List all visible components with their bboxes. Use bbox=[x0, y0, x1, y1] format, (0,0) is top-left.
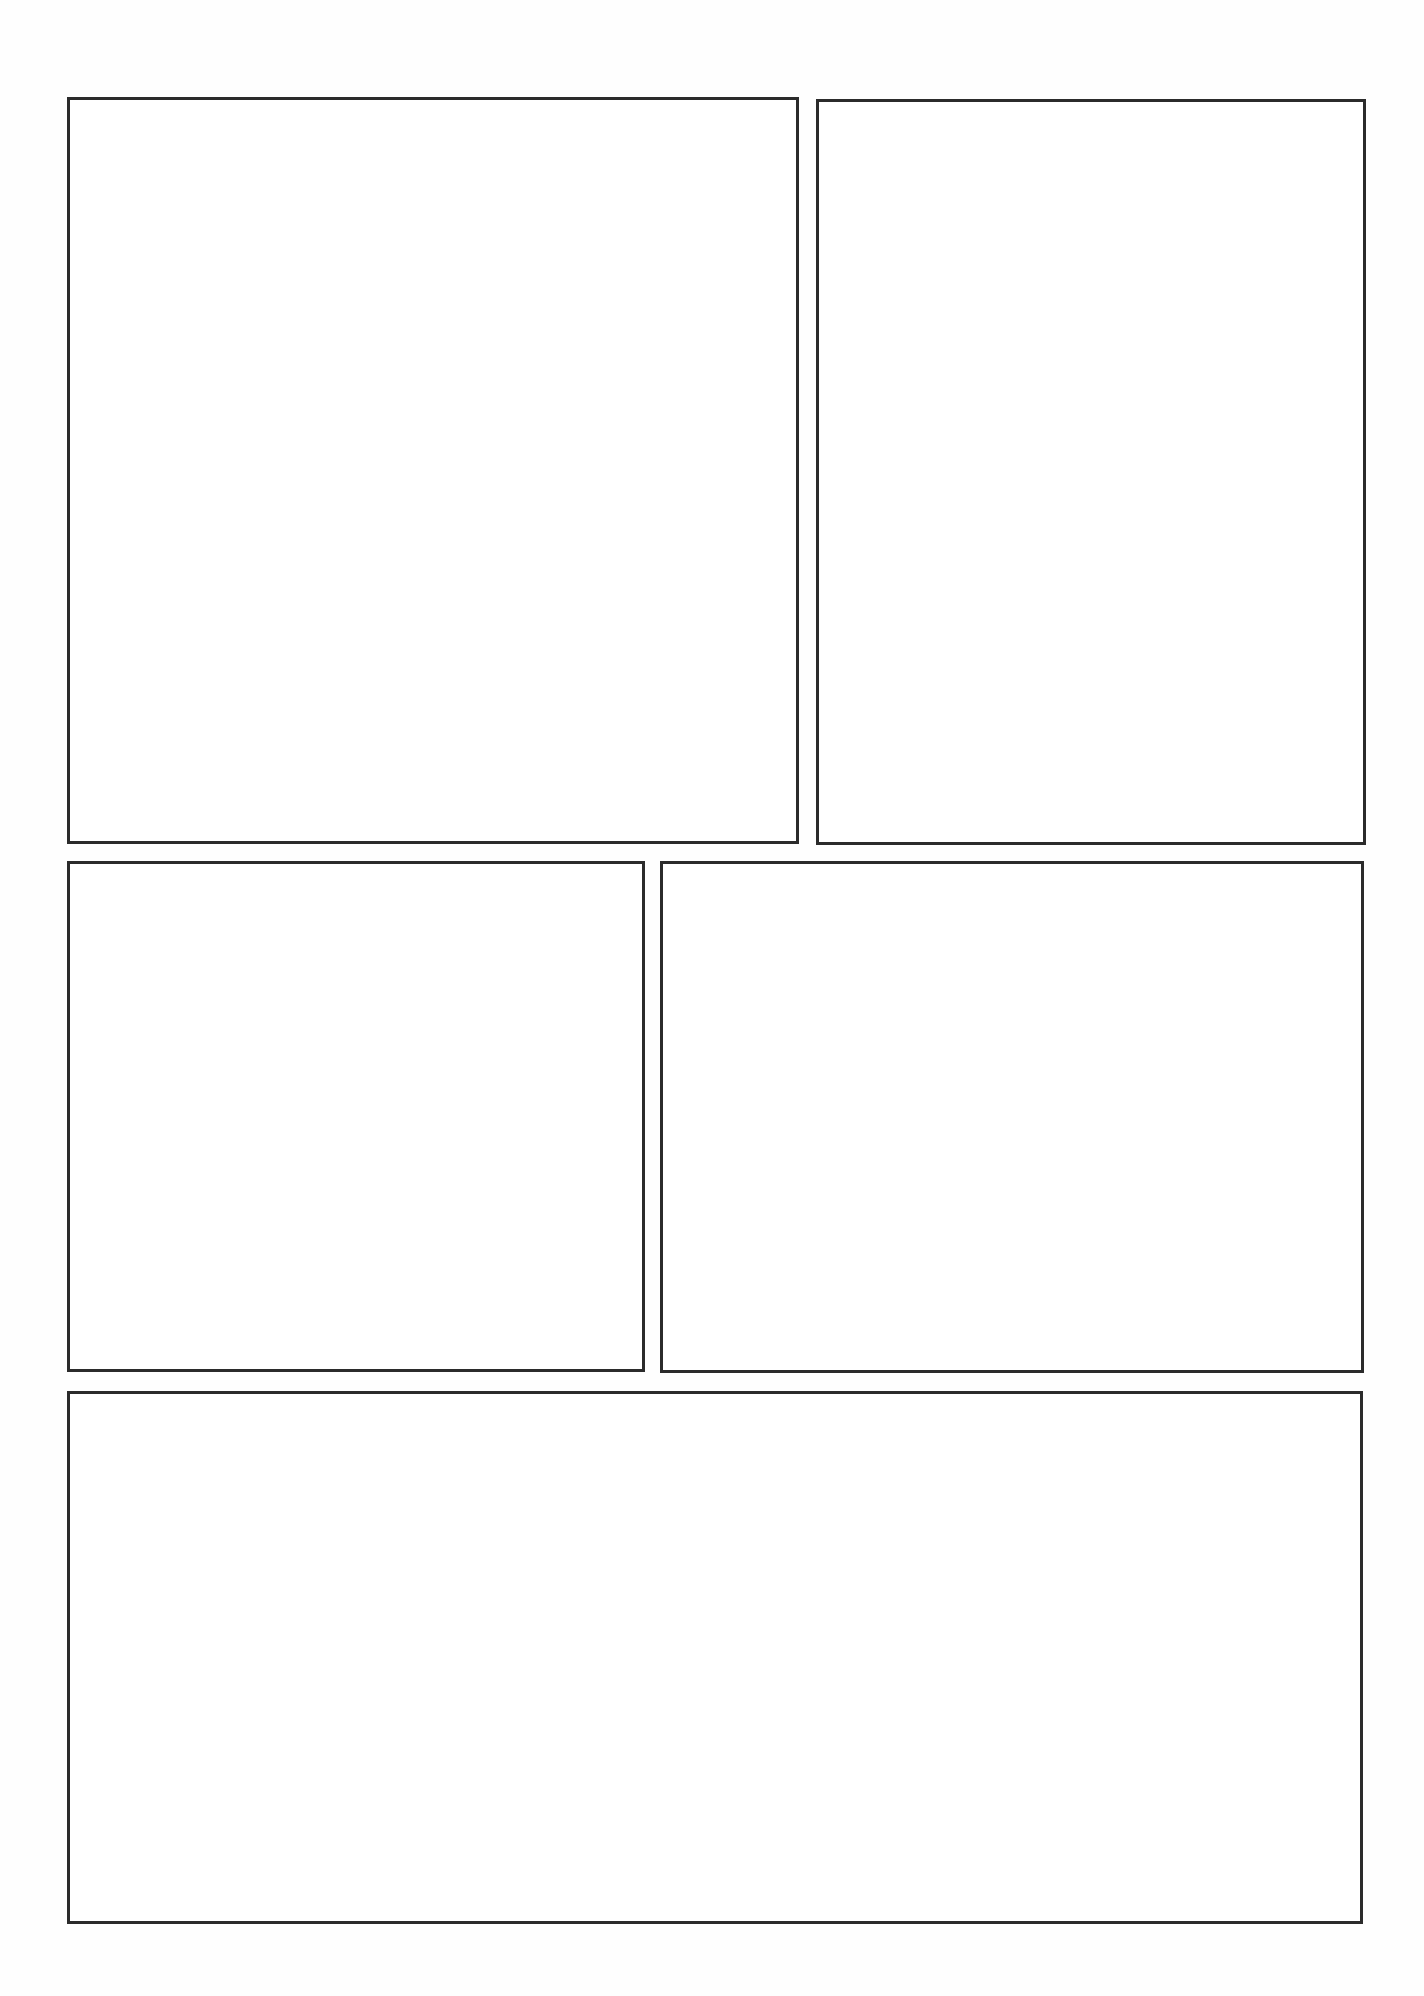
panel-5[interactable] bbox=[67, 1391, 1363, 1924]
panel-4[interactable] bbox=[660, 861, 1364, 1373]
panel-2[interactable] bbox=[816, 99, 1366, 845]
panel-1[interactable] bbox=[67, 97, 799, 844]
panel-3[interactable] bbox=[67, 861, 645, 1372]
comic-page bbox=[0, 0, 1424, 1996]
